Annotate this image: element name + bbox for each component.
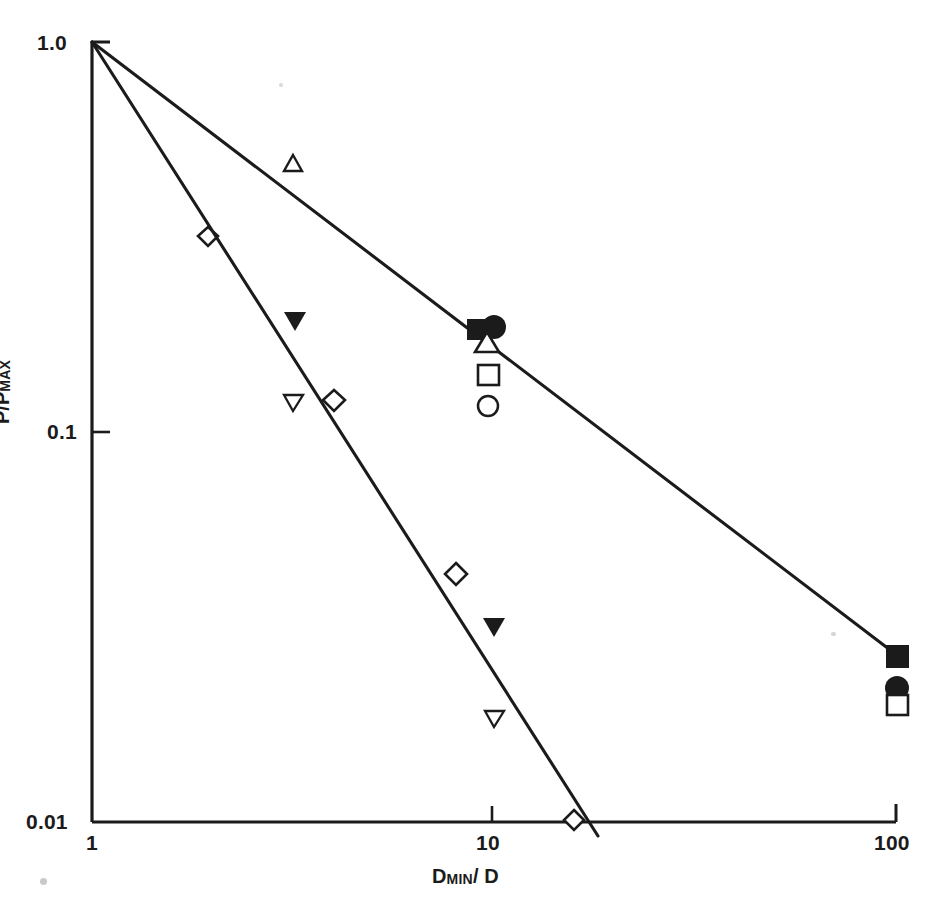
marker-filled-square xyxy=(886,645,909,668)
y-axis-title: P/PMAX xyxy=(0,360,12,424)
marker-open-circle xyxy=(478,396,498,416)
marker-open-triangle-down xyxy=(485,711,504,727)
marker-open-square xyxy=(887,695,908,715)
x-axis-title-tail: / D xyxy=(473,865,499,887)
marker-open-diamond xyxy=(445,563,467,585)
marker-open-triangle-up xyxy=(284,155,302,171)
x-axis-title-subscript: MIN xyxy=(446,871,473,887)
y-axis-title-subscript: MAX xyxy=(0,360,13,392)
plot-canvas xyxy=(0,0,934,903)
marker-filled-triangle-down xyxy=(284,312,306,331)
axis-lines xyxy=(92,42,896,822)
x-tick-label-10: 10 xyxy=(476,832,500,853)
y-axis-title-main: P/P xyxy=(0,392,13,424)
y-tick-label-0-1: 0.1 xyxy=(47,421,77,442)
x-tick-label-1: 1 xyxy=(86,832,98,853)
fit-lines xyxy=(92,42,898,836)
x-tick-label-100: 100 xyxy=(874,832,910,853)
scan-speck xyxy=(40,878,47,885)
x-axis-title: DMIN/ D xyxy=(432,866,499,886)
figure-panel: 1.0 0.1 0.01 1 10 100 DMIN/ D P/PMAX xyxy=(0,0,934,903)
data-markers xyxy=(198,155,909,830)
marker-open-square xyxy=(478,365,499,385)
tick-marks xyxy=(92,42,896,822)
marker-open-triangle-down xyxy=(284,395,303,411)
scan-speck xyxy=(831,632,836,636)
scan-speck xyxy=(279,83,283,87)
marker-filled-triangle-down xyxy=(483,618,505,637)
y-tick-label-1: 1.0 xyxy=(37,32,67,53)
steep-fit-line xyxy=(92,42,598,836)
marker-open-diamond xyxy=(564,810,584,830)
x-axis-title-main: D xyxy=(432,865,446,887)
y-tick-label-0-01: 0.01 xyxy=(26,811,68,832)
